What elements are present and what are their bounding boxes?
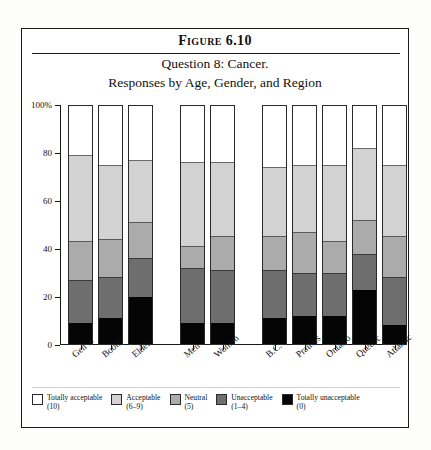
bar-segment xyxy=(69,155,92,241)
y-axis-tick-label: 20 xyxy=(43,292,52,302)
legend-item-unacceptable[interactable]: Unacceptable(1–4) xyxy=(216,393,272,411)
legend-item-totally-acceptable[interactable]: Totally acceptable(10) xyxy=(32,393,102,411)
bar-segment xyxy=(293,232,316,273)
bar-men[interactable] xyxy=(180,105,205,345)
legend-label: Neutral(5) xyxy=(185,393,208,411)
bar-segment xyxy=(263,236,286,270)
bar-segment xyxy=(263,106,286,167)
chart-title-line-1: Question 8: Cancer. xyxy=(22,56,408,72)
bar-segment xyxy=(99,239,122,278)
bar-b-c[interactable] xyxy=(262,105,287,345)
bar-segment xyxy=(129,222,152,258)
bar-segment xyxy=(69,241,92,280)
bar-segment xyxy=(263,270,286,318)
bar-segment xyxy=(353,148,376,220)
legend-item-acceptable[interactable]: Acceptable(6–9) xyxy=(111,393,160,411)
y-axis-tick xyxy=(55,153,60,154)
bar-segment xyxy=(99,106,122,165)
bar-segment xyxy=(129,160,152,222)
bar-segment xyxy=(211,162,234,236)
bar-segment xyxy=(323,106,346,165)
bar-ontario[interactable] xyxy=(322,105,347,345)
chart-plot-area: 020406080100% Gen XBoomEldersMenWomenB.C… xyxy=(60,105,390,345)
legend-divider xyxy=(32,387,400,388)
bar-segment xyxy=(353,254,376,290)
y-axis-tick-label: 60 xyxy=(43,196,52,206)
legend-label: Unacceptable(1–4) xyxy=(231,393,272,411)
legend-item-totally-unacceptable[interactable]: Totally unacceptable(0) xyxy=(282,393,360,411)
bar-segment xyxy=(353,106,376,148)
y-axis-tick xyxy=(55,201,60,202)
bar-segment xyxy=(211,106,234,162)
bar-segment xyxy=(353,220,376,254)
bar-segment xyxy=(181,246,204,268)
bar-segment xyxy=(211,236,234,270)
chart-legend: Totally acceptable(10)Acceptable(6–9)Neu… xyxy=(32,393,400,419)
y-axis-tick xyxy=(55,105,60,106)
y-axis-tick-label: 100% xyxy=(31,100,52,110)
legend-swatch xyxy=(216,394,227,405)
bar-segment xyxy=(181,162,204,245)
bar-segment xyxy=(69,106,92,155)
bar-segment xyxy=(323,241,346,273)
figure-page: Figure 6.10 Question 8: Cancer. Response… xyxy=(0,0,431,450)
legend-item-neutral[interactable]: Neutral(5) xyxy=(170,393,208,411)
y-axis-tick xyxy=(55,345,60,346)
bar-elders[interactable] xyxy=(128,105,153,345)
bar-segment xyxy=(129,258,152,297)
bar-segment xyxy=(181,323,204,344)
bar-segment xyxy=(383,236,406,277)
legend-swatch xyxy=(32,394,43,405)
bar-segment xyxy=(69,280,92,323)
bar-quebec[interactable] xyxy=(352,105,377,345)
y-axis-tick xyxy=(55,297,60,298)
bar-boom[interactable] xyxy=(98,105,123,345)
legend-label: Totally unacceptable(0) xyxy=(297,393,360,411)
bar-segment xyxy=(293,106,316,165)
bar-segment xyxy=(293,165,316,232)
figure-number: Figure 6.10 xyxy=(22,33,408,49)
legend-label: Acceptable(6–9) xyxy=(126,393,160,411)
bar-segment xyxy=(181,268,204,323)
bar-segment xyxy=(181,106,204,162)
bar-prairies[interactable] xyxy=(292,105,317,345)
bar-atlantic[interactable] xyxy=(382,105,407,345)
bar-segment xyxy=(129,106,152,160)
y-axis-tick-label: 0 xyxy=(48,340,53,350)
y-axis-tick-label: 40 xyxy=(43,244,52,254)
bar-gen-x[interactable] xyxy=(68,105,93,345)
bar-segment xyxy=(293,273,316,316)
figure-frame: Figure 6.10 Question 8: Cancer. Response… xyxy=(21,28,409,428)
legend-swatch xyxy=(170,394,181,405)
bar-segment xyxy=(211,270,234,323)
y-axis-tick xyxy=(55,249,60,250)
bar-women[interactable] xyxy=(210,105,235,345)
bar-segment xyxy=(383,106,406,165)
bar-segment xyxy=(323,165,346,241)
bar-segment xyxy=(323,273,346,316)
bar-segment xyxy=(99,277,122,318)
legend-swatch xyxy=(282,394,293,405)
bar-segment xyxy=(99,165,122,239)
legend-swatch xyxy=(111,394,122,405)
y-axis-tick-label: 80 xyxy=(43,148,52,158)
chart-title-line-2: Responses by Age, Gender, and Region xyxy=(22,75,408,91)
bar-segment xyxy=(263,318,286,344)
y-axis xyxy=(60,105,61,345)
bar-segment xyxy=(383,165,406,237)
bar-segment xyxy=(383,277,406,325)
header-divider xyxy=(32,53,400,54)
bar-segment xyxy=(263,167,286,236)
legend-label: Totally acceptable(10) xyxy=(47,393,102,411)
